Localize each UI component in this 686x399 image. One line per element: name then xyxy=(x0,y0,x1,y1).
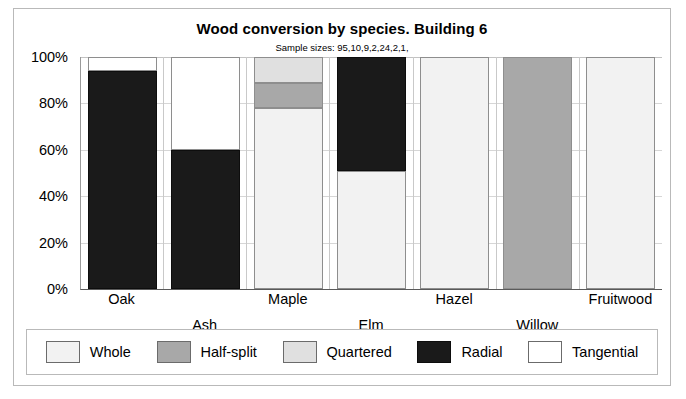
bar-segment-half-split xyxy=(503,57,572,289)
bar-stack xyxy=(586,57,655,289)
legend-label: Quartered xyxy=(327,344,392,360)
bar-segment-whole xyxy=(337,171,406,289)
bar-stack xyxy=(254,57,323,289)
bar-column[interactable] xyxy=(164,57,247,289)
bar-stack xyxy=(337,57,406,289)
y-axis: 0%20%40%60%80%100% xyxy=(14,57,74,289)
bar-stack xyxy=(171,57,240,289)
bar-segment-half-split xyxy=(254,83,323,109)
bar-column[interactable] xyxy=(330,57,413,289)
bar-column[interactable] xyxy=(580,57,662,289)
bar-column[interactable] xyxy=(247,57,330,289)
bar-segment-whole xyxy=(420,57,489,289)
bar-segment-whole xyxy=(254,108,323,289)
legend-label: Tangential xyxy=(572,344,638,360)
bar-column[interactable] xyxy=(414,57,497,289)
plot-area xyxy=(80,57,662,290)
chart-container: Wood conversion by species. Building 6 S… xyxy=(13,8,671,386)
y-axis-tick-label: 20% xyxy=(39,235,68,251)
legend-swatch-half-split xyxy=(157,341,191,363)
bar-column[interactable] xyxy=(81,57,164,289)
legend-item[interactable]: Whole xyxy=(46,341,131,363)
bar-segment-radial xyxy=(88,71,157,289)
x-axis-label: Fruitwood xyxy=(579,291,662,307)
legend-label: Radial xyxy=(461,344,502,360)
chart-subtitle: Sample sizes: 95,10,9,2,24,2,1, xyxy=(14,42,670,53)
bar-stack xyxy=(503,57,572,289)
legend-swatch-radial xyxy=(417,341,451,363)
x-axis-label: Maple xyxy=(246,291,329,307)
bar-segment-quartered xyxy=(254,57,323,83)
legend-item[interactable]: Tangential xyxy=(528,341,638,363)
bar-segment-tangential xyxy=(88,57,157,71)
bar-segment-whole xyxy=(586,57,655,289)
legend-swatch-tangential xyxy=(528,341,562,363)
y-axis-tick-label: 40% xyxy=(39,188,68,204)
legend-swatch-whole xyxy=(46,341,80,363)
bar-segment-radial xyxy=(337,57,406,171)
legend-label: Whole xyxy=(90,344,131,360)
bar-stack xyxy=(88,57,157,289)
legend-swatch-quartered xyxy=(283,341,317,363)
x-axis-label: Hazel xyxy=(413,291,496,307)
chart-legend: WholeHalf-splitQuarteredRadialTangential xyxy=(26,329,658,375)
legend-item[interactable]: Radial xyxy=(417,341,502,363)
legend-label: Half-split xyxy=(201,344,257,360)
bar-segment-tangential xyxy=(171,57,240,150)
y-axis-tick-label: 100% xyxy=(31,49,68,65)
plot-wrapper: 0%20%40%60%80%100% OakAshMapleElmHazelWi… xyxy=(14,57,672,300)
y-axis-tick-label: 0% xyxy=(47,281,68,297)
chart-title: Wood conversion by species. Building 6 xyxy=(14,20,670,37)
bar-column[interactable] xyxy=(497,57,580,289)
y-axis-tick-label: 80% xyxy=(39,95,68,111)
legend-item[interactable]: Half-split xyxy=(157,341,257,363)
legend-item[interactable]: Quartered xyxy=(283,341,392,363)
bar-group xyxy=(81,57,662,289)
bar-stack xyxy=(420,57,489,289)
y-axis-tick-label: 60% xyxy=(39,142,68,158)
x-axis-label: Oak xyxy=(80,291,163,307)
bar-segment-radial xyxy=(171,150,240,289)
